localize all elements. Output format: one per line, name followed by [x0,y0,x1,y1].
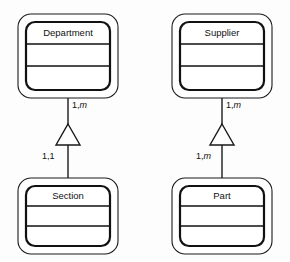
generalization-triangle-right [210,124,234,145]
mult-plain-2: 1,1 [42,151,55,161]
entity-supplier[interactable]: Supplier [172,14,272,98]
mult-italic-3: m [234,100,242,110]
mult-italic-1: m [80,100,88,110]
mult-plain-4: 1, [196,151,204,161]
multiplicity-label-part-end: 1,m [196,151,212,161]
entity-department[interactable]: Department [18,14,118,98]
entity-department-title: Department [43,27,93,38]
generalization-triangle-left [56,124,80,145]
entity-section-title: Section [52,190,84,201]
relationship-department-section: 1,m 1,1 [42,98,88,178]
multiplicity-label-section-end: 1,1 [42,151,55,161]
uml-class-diagram: 1,m 1,1 1,m 1,m Department [0,0,290,262]
entity-supplier-title: Supplier [205,27,240,38]
entity-part[interactable]: Part [172,178,272,254]
multiplicity-label-supplier-end: 1,m [226,100,242,110]
mult-italic-4: m [204,151,212,161]
entity-section[interactable]: Section [18,178,118,254]
multiplicity-label-department-end: 1,m [72,100,88,110]
mult-plain-3: 1, [226,100,234,110]
mult-plain-1: 1, [72,100,80,110]
diagram-canvas: 1,m 1,1 1,m 1,m Department [0,0,290,262]
entity-part-title: Part [213,190,231,201]
relationship-supplier-part: 1,m 1,m [196,98,242,178]
